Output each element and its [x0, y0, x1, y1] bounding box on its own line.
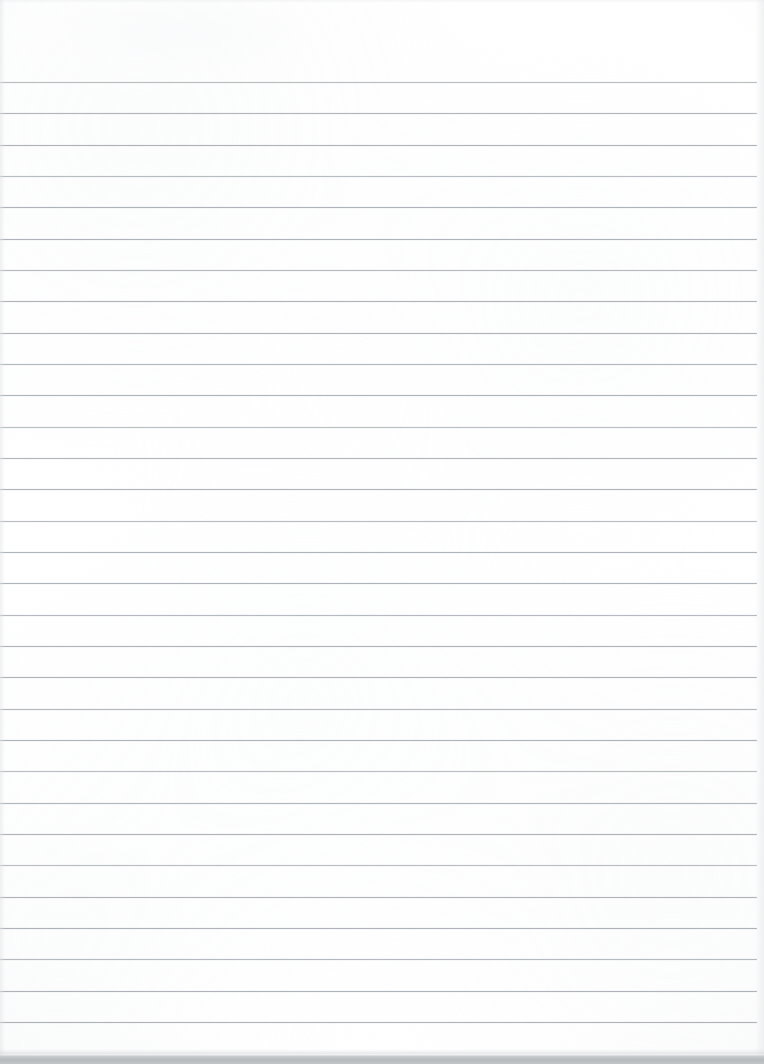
scanned-page: [0, 0, 764, 1064]
bottom-edge-shadow-band: [0, 1054, 764, 1064]
writing-area: [0, 0, 764, 1064]
